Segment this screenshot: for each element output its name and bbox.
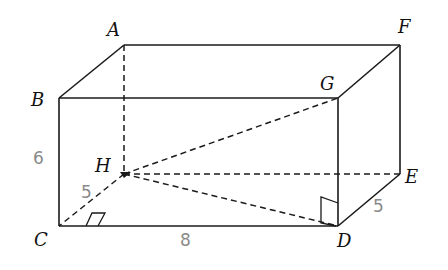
measure-depth-DE-5: 5 [373, 196, 384, 216]
diagonal-HG [124, 98, 338, 174]
label-C: C [34, 229, 48, 250]
label-H: H [94, 155, 111, 176]
right-angle-mark-D [321, 197, 338, 226]
label-D: D [336, 230, 352, 251]
edge-FG [338, 45, 400, 98]
edge-ED [338, 174, 400, 226]
cuboid-diagram: A F B G H E C D 6 5 8 5 [0, 0, 448, 270]
measure-height-6: 6 [33, 148, 44, 168]
diagonal-HD [124, 174, 338, 226]
measure-length-CD-8: 8 [180, 230, 191, 250]
measure-depth-CH-5: 5 [81, 182, 92, 202]
label-A: A [105, 19, 120, 40]
diagram-canvas: A F B G H E C D 6 5 8 5 [0, 0, 448, 270]
label-B: B [30, 89, 44, 110]
label-E: E [404, 166, 418, 187]
label-F: F [397, 16, 412, 37]
right-angle-mark-C [86, 213, 105, 226]
edge-AB [59, 45, 124, 98]
label-G: G [320, 73, 334, 94]
